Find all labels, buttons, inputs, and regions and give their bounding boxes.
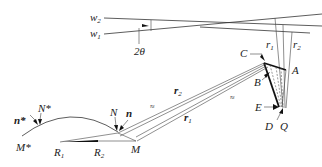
w2-line bbox=[104, 18, 322, 26]
n-leader bbox=[122, 120, 128, 127]
D-arrow bbox=[279, 108, 283, 114]
label-approx-1: ≈ bbox=[150, 102, 155, 111]
N-star-leader bbox=[40, 113, 41, 120]
segment-CA bbox=[264, 63, 286, 70]
label-N-star: N* bbox=[37, 102, 51, 114]
label-D: D bbox=[264, 120, 273, 132]
angle-arrow bbox=[142, 24, 149, 27]
label-n: n bbox=[126, 107, 132, 119]
label-A: A bbox=[291, 64, 299, 76]
label-r1-top: r1 bbox=[266, 38, 274, 52]
label-R2: R2 bbox=[93, 146, 105, 160]
ray-r1-lower bbox=[137, 67, 268, 141]
label-w2: w2 bbox=[90, 11, 101, 25]
w1-line bbox=[104, 14, 322, 34]
label-n-star: n* bbox=[14, 114, 26, 126]
label-w1: w1 bbox=[90, 27, 101, 41]
label-angle: 2θ bbox=[134, 45, 146, 57]
label-r1-mid: r1 bbox=[184, 111, 192, 125]
ray-r2-lower bbox=[120, 64, 266, 136]
label-E: E bbox=[254, 101, 262, 113]
optics-diagram: w2 w1 2θ r1 r2 C A B E D Q r2 r1 ≈ ≈ N n… bbox=[0, 0, 322, 167]
label-Q: Q bbox=[280, 120, 288, 132]
label-r2-mid: r2 bbox=[174, 84, 182, 98]
label-M: M bbox=[130, 143, 141, 155]
n-star-arrow bbox=[33, 119, 38, 125]
label-B: B bbox=[254, 76, 261, 88]
label-r2-top: r2 bbox=[293, 38, 301, 52]
N-leader bbox=[115, 117, 116, 126]
label-M-star: M* bbox=[15, 141, 31, 153]
label-approx-2: ≈ bbox=[230, 93, 235, 102]
label-R1: R1 bbox=[53, 146, 64, 160]
n-star-leader bbox=[30, 115, 35, 120]
label-N: N bbox=[109, 106, 118, 118]
ray-r1-upper bbox=[136, 66, 266, 137]
line-N-M bbox=[118, 133, 136, 141]
label-C: C bbox=[240, 47, 248, 59]
wavefront-curve bbox=[22, 117, 118, 136]
w-line-ext-lower bbox=[200, 27, 310, 33]
C-arrow bbox=[260, 54, 265, 61]
